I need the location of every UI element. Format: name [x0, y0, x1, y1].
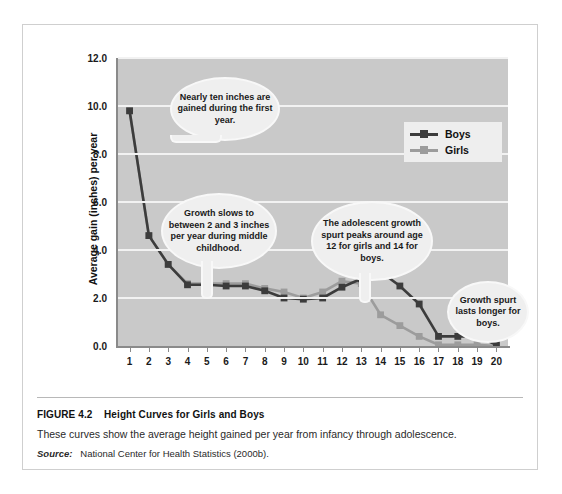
callout-first-year: Nearly ten inches are gained during the …	[170, 77, 280, 141]
data-point-girls	[339, 278, 346, 285]
data-point-boys	[223, 283, 230, 290]
y-axis: Average gain (inches) per year 0.02.04.0…	[23, 25, 115, 393]
x-tick-mark	[477, 346, 478, 352]
callout-first-year-tail	[170, 135, 222, 143]
x-tick-mark	[245, 346, 246, 352]
x-tick-label: 15	[394, 356, 405, 367]
x-tick-mark	[188, 346, 189, 352]
x-tick-mark	[438, 346, 439, 352]
legend-swatch-icon	[410, 145, 438, 155]
x-tick-label: 5	[204, 356, 210, 367]
x-tick-label: 18	[452, 356, 463, 367]
data-point-girls	[416, 333, 423, 340]
x-tick-mark	[149, 346, 150, 352]
x-tick-mark	[342, 346, 343, 352]
x-tick-mark	[361, 346, 362, 352]
x-tick-label: 12	[336, 356, 347, 367]
data-point-girls	[396, 322, 403, 329]
legend-item-boys: Boys	[410, 126, 496, 142]
legend-label: Boys	[445, 128, 471, 140]
callout-middle-childhood: Growth slows to between 2 and 3 inches p…	[161, 193, 277, 269]
figure-caption: FIGURE 4.2 Height Curves for Girls and B…	[23, 397, 537, 460]
figure-page: Average gain (inches) per year 0.02.04.0…	[0, 0, 562, 494]
source-label: Source:	[37, 448, 72, 459]
callout-adolescent-spurt-tail	[359, 273, 371, 303]
x-tick-label: 20	[491, 356, 502, 367]
chart-region: Average gain (inches) per year 0.02.04.0…	[23, 25, 537, 393]
x-tick-label: 8	[262, 356, 268, 367]
caption-divider	[37, 397, 523, 398]
callout-boys-longer: Growth spurt lasts longer for boys.	[447, 281, 529, 343]
y-tick-label: 12.0	[88, 53, 107, 64]
data-point-girls	[377, 311, 384, 318]
legend-item-girls: Girls	[410, 142, 496, 158]
x-tick-mark	[130, 346, 131, 352]
legend: BoysGirls	[404, 122, 502, 162]
x-tick-label: 2	[146, 356, 152, 367]
x-tick-label: 3	[165, 356, 171, 367]
source-text: National Center for Health Statistics (2…	[80, 448, 269, 459]
x-tick-label: 7	[243, 356, 249, 367]
y-tick-label: 8.0	[93, 149, 107, 160]
data-point-boys	[416, 301, 423, 308]
figure-container: Average gain (inches) per year 0.02.04.0…	[22, 24, 538, 470]
x-tick-label: 10	[298, 356, 309, 367]
legend-label: Girls	[445, 144, 469, 156]
data-point-boys	[126, 107, 133, 114]
y-tick-label: 6.0	[93, 197, 107, 208]
x-tick-mark	[303, 346, 304, 352]
data-point-girls	[281, 289, 288, 296]
y-tick-label: 10.0	[88, 101, 107, 112]
x-tick-label: 13	[356, 356, 367, 367]
data-point-boys	[145, 232, 152, 239]
x-tick-mark	[226, 346, 227, 352]
figure-title-line: FIGURE 4.2 Height Curves for Girls and B…	[37, 409, 523, 420]
figure-source: Source: National Center for Health Stati…	[37, 448, 523, 460]
x-tick-mark	[458, 346, 459, 352]
x-tick-mark	[207, 346, 208, 352]
x-tick-mark	[323, 346, 324, 352]
x-tick-mark	[381, 346, 382, 352]
callout-adolescent-spurt: The adolescent growth spurt peaks around…	[311, 201, 433, 281]
x-axis-line	[118, 346, 510, 348]
data-point-boys	[339, 284, 346, 291]
x-tick-label: 16	[414, 356, 425, 367]
x-tick-label: 11	[317, 356, 328, 367]
data-point-boys	[242, 283, 249, 290]
figure-title: Height Curves for Girls and Boys	[104, 409, 264, 420]
x-tick-label: 17	[433, 356, 444, 367]
y-tick-label: 0.0	[93, 341, 107, 352]
y-tick-label: 4.0	[93, 245, 107, 256]
x-tick-mark	[284, 346, 285, 352]
figure-number: FIGURE 4.2	[37, 409, 92, 420]
x-tick-label: 6	[223, 356, 229, 367]
x-tick-mark	[419, 346, 420, 352]
x-tick-mark	[265, 346, 266, 352]
y-tick-label: 2.0	[93, 293, 107, 304]
gridline	[118, 201, 508, 203]
data-point-boys	[184, 281, 191, 288]
x-tick-label: 4	[185, 356, 191, 367]
data-point-boys	[396, 283, 403, 290]
data-point-girls	[319, 289, 326, 296]
data-point-boys	[261, 287, 268, 294]
x-tick-mark	[168, 346, 169, 352]
figure-description: These curves show the average height gai…	[37, 428, 523, 441]
data-point-boys	[165, 261, 172, 268]
x-tick-label: 14	[375, 356, 386, 367]
data-point-boys	[435, 333, 442, 340]
gridline	[118, 57, 508, 59]
x-tick-label: 1	[127, 356, 133, 367]
x-tick-label: 9	[281, 356, 287, 367]
x-tick-mark	[496, 346, 497, 352]
x-tick-label: 19	[472, 356, 483, 367]
x-tick-mark	[400, 346, 401, 352]
callout-middle-childhood-tail	[201, 261, 213, 299]
legend-swatch-icon	[410, 129, 438, 139]
